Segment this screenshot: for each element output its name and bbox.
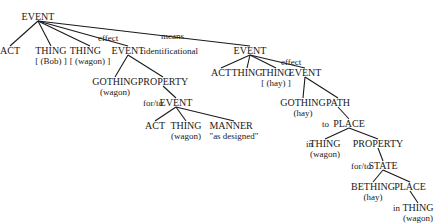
tree-node-event: EVENT xyxy=(22,12,55,22)
edge-label: :identificational xyxy=(141,47,198,56)
node-label: PLACE xyxy=(394,181,426,192)
node-label: EVENT xyxy=(22,11,55,22)
node-label: GOTHING xyxy=(92,76,138,87)
node-argument: [ (Bob) ] xyxy=(35,56,67,66)
tree-node-thing: THING[ (hay) ] xyxy=(260,68,291,88)
node-argument: [ (wagon) ] xyxy=(70,56,110,66)
tree-node-place: PLACE xyxy=(333,119,365,129)
node-label: EVENT xyxy=(289,67,322,78)
edge-label: in xyxy=(306,140,313,149)
tree-node-event: EVENT xyxy=(289,68,322,78)
node-label: THING xyxy=(402,202,433,213)
tree-node-thing: THING(wagon) xyxy=(402,203,433,223)
tree-edge xyxy=(115,55,128,77)
node-argument: (hay) xyxy=(351,192,395,202)
node-label: PROPERTY xyxy=(353,138,404,149)
node-label: PROPERTY xyxy=(138,76,189,87)
edge-label: means xyxy=(161,32,184,41)
tree-node-thing: THING xyxy=(231,68,262,78)
node-label: THING xyxy=(35,45,66,56)
node-label: ACT xyxy=(211,67,231,78)
tree-node-state: STATE xyxy=(368,161,397,171)
node-label: STATE xyxy=(368,160,397,171)
node-argument: (wagon) xyxy=(170,131,201,141)
tree-edge xyxy=(38,21,51,46)
node-label: THING xyxy=(309,138,340,149)
node-label: BETHING xyxy=(351,181,395,192)
tree-node-bething: BETHING(hay) xyxy=(351,182,395,202)
node-argument: [ (hay) ] xyxy=(260,78,291,88)
edge-label: in xyxy=(393,204,400,213)
tree-node-thing: THING(wagon) xyxy=(309,139,340,159)
node-label: PATH xyxy=(326,97,350,108)
tree-node-event: EVENT xyxy=(234,46,267,56)
node-label: THING xyxy=(260,67,291,78)
node-label: THING xyxy=(70,45,101,56)
node-argument: (hay) xyxy=(280,108,326,118)
tree-node-act: ACT xyxy=(145,121,165,131)
tree-node-property: PROPERTY xyxy=(138,77,189,87)
edge-label: effect xyxy=(281,58,301,67)
tree-node-act: ACT xyxy=(211,68,231,78)
tree-edge xyxy=(128,55,163,77)
tree-node-thing: THING[ (wagon) ] xyxy=(70,46,110,66)
node-label: GOTHING xyxy=(280,97,326,108)
edge-label: to xyxy=(322,120,329,129)
tree-node-manner: MANNER"as designed" xyxy=(209,121,258,141)
tree-node-thing: THING[ (Bob) ] xyxy=(35,46,67,66)
node-label: EVENT xyxy=(112,45,145,56)
tree-node-gothing: GOTHING(wagon) xyxy=(92,77,138,97)
tree-edge xyxy=(303,77,305,98)
node-label: EVENT xyxy=(234,45,267,56)
tree-edge xyxy=(155,107,176,121)
tree-node-event: EVENT xyxy=(112,46,145,56)
tree-edge xyxy=(10,21,38,46)
node-label: ACT xyxy=(0,45,20,56)
node-label: PLACE xyxy=(333,118,365,129)
node-label: THING xyxy=(231,67,262,78)
tree-node-place: PLACE xyxy=(394,182,426,192)
tree-node-property: PROPERTY xyxy=(353,139,404,149)
node-label: ACT xyxy=(145,120,165,131)
node-argument: "as designed" xyxy=(209,131,258,141)
tree-edge xyxy=(305,77,338,98)
node-label: MANNER xyxy=(209,120,252,131)
edge-label: effect xyxy=(98,34,118,43)
node-label: THING xyxy=(170,120,201,131)
tree-node-path: PATH xyxy=(326,98,350,108)
tree-node-thing: THING(wagon) xyxy=(170,121,201,141)
tree-node-act: ACT xyxy=(0,46,20,56)
edge-label: for/to xyxy=(143,99,163,108)
node-label: EVENT xyxy=(160,97,193,108)
tree-diagram: EVENTACTTHING[ (Bob) ]THING[ (wagon) ]EV… xyxy=(0,0,443,224)
node-argument: (wagon) xyxy=(402,213,433,223)
tree-edge xyxy=(38,21,250,46)
tree-node-event: EVENT xyxy=(160,98,193,108)
tree-node-gothing: GOTHING(hay) xyxy=(280,98,326,118)
edge-label: for/to xyxy=(351,162,371,171)
node-argument: (wagon) xyxy=(309,149,340,159)
node-argument: (wagon) xyxy=(92,87,138,97)
